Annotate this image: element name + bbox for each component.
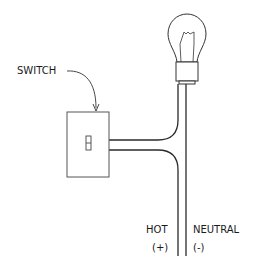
switch-label: SWITCH (17, 65, 56, 76)
bulb-filament (180, 32, 194, 62)
switch (67, 112, 109, 177)
bulb-base (176, 62, 198, 81)
bulb-glass (168, 14, 206, 62)
hot-label: HOT (146, 224, 168, 235)
hot-wire-to-bulb (109, 84, 178, 140)
light-bulb (168, 14, 206, 84)
neutral-label: NEUTRAL (193, 224, 240, 235)
wiring-diagram: SWITCH HOT (+) NEUTRAL (-) (0, 0, 263, 271)
bulb-base-neck (179, 81, 195, 84)
hot-sign-label: (+) (152, 242, 168, 253)
hot-wire-supply (109, 150, 178, 256)
switch-pointer-arrow (67, 71, 96, 108)
neutral-sign-label: (-) (193, 242, 205, 253)
